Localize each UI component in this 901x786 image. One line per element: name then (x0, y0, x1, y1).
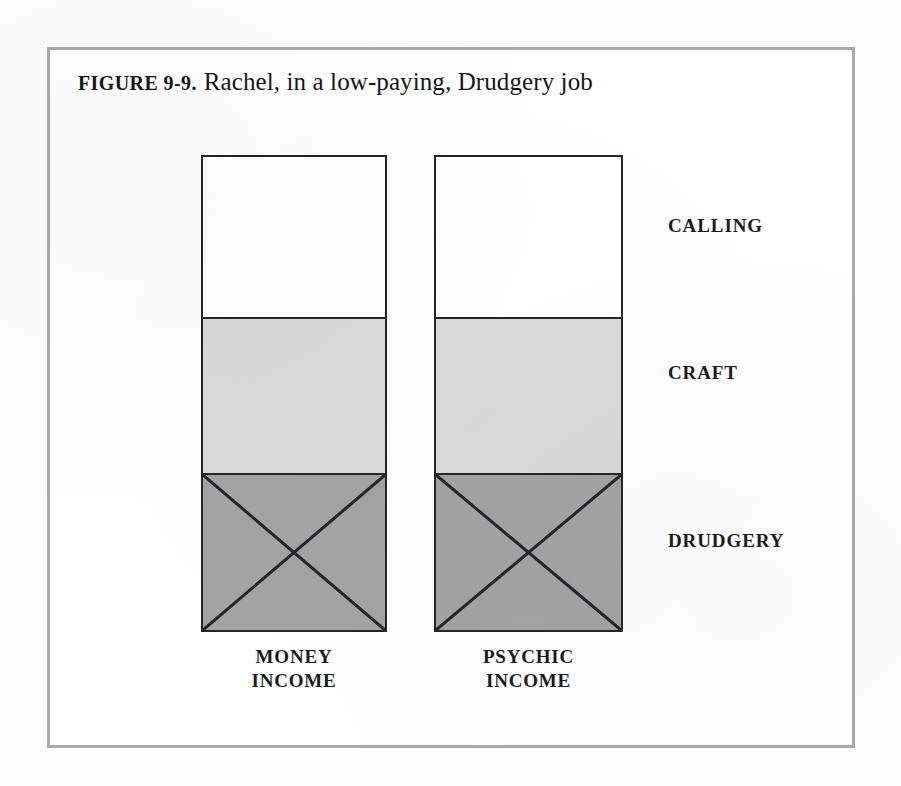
drudgery-cross-out-icon (436, 475, 621, 630)
bar-segment-calling[interactable] (203, 157, 385, 319)
axis-label-line1: MONEY (201, 645, 387, 669)
drudgery-cross-out-icon (203, 475, 385, 630)
axis-label-line1: PSYCHIC (434, 645, 623, 669)
bar-column-money-income (201, 155, 387, 632)
bar-segment-craft[interactable] (436, 319, 621, 475)
figure-caption-text: Rachel, in a low-paying, Drudgery job (204, 68, 593, 95)
bar-segment-drudgery[interactable] (436, 475, 621, 630)
axis-label-line2: INCOME (201, 669, 387, 693)
figure-caption: FIGURE 9-9.Rachel, in a low-paying, Drud… (78, 68, 778, 108)
bar-stack (201, 155, 387, 632)
legend-item-calling: CALLING (668, 215, 763, 237)
bar-column-psychic-income (434, 155, 623, 632)
bar-segment-calling[interactable] (436, 157, 621, 319)
bar-segment-craft[interactable] (203, 319, 385, 475)
axis-label-psychic-income: PSYCHIC INCOME (434, 645, 623, 694)
bar-segment-drudgery[interactable] (203, 475, 385, 630)
bar-stack (434, 155, 623, 632)
axis-label-line2: INCOME (434, 669, 623, 693)
axis-label-money-income: MONEY INCOME (201, 645, 387, 694)
legend-item-craft: CRAFT (668, 362, 738, 384)
figure-number-label: FIGURE 9-9. (78, 72, 197, 94)
legend-item-drudgery: DRUDGERY (668, 530, 784, 552)
stacked-bar-chart: MONEY INCOME PSYCHIC INCOME CALLING CRAF… (0, 0, 901, 786)
